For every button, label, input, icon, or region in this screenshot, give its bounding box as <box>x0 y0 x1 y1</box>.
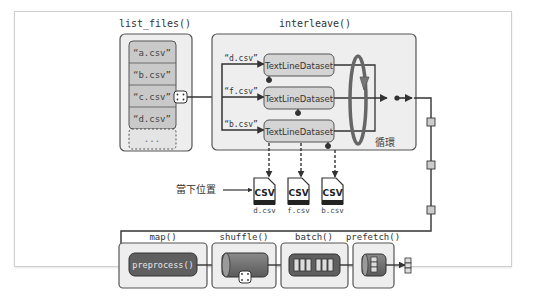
svg-text:CSV: CSV <box>254 188 274 198</box>
csv-file-icon: CSV <box>254 178 275 205</box>
dice-icon <box>174 91 187 103</box>
interleave-stage: interleave() “d.csv” “f.csv” “b.csv” Tex… <box>212 18 416 150</box>
map-stage: map() preprocess() <box>119 232 207 288</box>
record-dot <box>394 95 399 100</box>
text-line-dataset-label: TextLineDataset <box>264 127 334 137</box>
csv-file-name: b.csv <box>321 206 344 215</box>
shuffle-title: shuffle() <box>220 232 269 242</box>
interleave-input: “d.csv” <box>224 54 258 63</box>
csv-file-name: d.csv <box>253 206 276 215</box>
prefetch-stage: prefetch() <box>346 232 400 288</box>
csv-files: 當下位置 CSV CSV CSV d.csv f.csv b.csv <box>176 178 344 215</box>
svg-text:CSV: CSV <box>288 188 308 198</box>
csv-file-icon: CSV <box>322 178 343 205</box>
shuffle-stage: shuffle() <box>212 232 276 288</box>
dice-icon <box>239 271 251 283</box>
csv-file-name: f.csv <box>287 206 310 215</box>
list-files-stage: list_files() “a.csv” “b.csv” “c.csv” “d.… <box>119 18 192 151</box>
text-line-dataset-label: TextLineDataset <box>264 61 334 71</box>
file-item: “b.csv” <box>133 70 171 80</box>
text-line-dataset-label: TextLineDataset <box>264 94 334 104</box>
file-item: “c.csv” <box>133 92 171 102</box>
svg-text:CSV: CSV <box>322 188 342 198</box>
file-item: “a.csv” <box>133 48 171 58</box>
batch-title: batch() <box>295 232 333 242</box>
csv-file-icon: CSV <box>288 178 309 205</box>
list-files-title: list_files() <box>119 18 191 30</box>
map-title: map() <box>149 232 176 242</box>
record-square-icon <box>427 118 435 126</box>
record-square-icon <box>427 206 435 214</box>
interleave-title: interleave() <box>279 18 351 29</box>
prefetch-buffer-icon <box>362 254 386 276</box>
file-item: “d.csv” <box>133 114 171 124</box>
record-square-icon <box>427 161 435 169</box>
current-position-label: 當下位置 <box>176 183 216 195</box>
loop-label: 循環 <box>375 136 395 148</box>
batch-stage: batch() <box>281 232 348 288</box>
prefetch-title: prefetch() <box>346 232 400 242</box>
pipeline-diagram: list_files() “a.csv” “b.csv” “c.csv” “d.… <box>0 0 554 305</box>
file-item-ellipsis: ... <box>144 134 160 144</box>
output-batch-icon <box>405 258 411 273</box>
interleave-input: “b.csv” <box>224 120 258 129</box>
interleave-input: “f.csv” <box>224 87 258 96</box>
preprocess-label: preprocess() <box>132 260 193 270</box>
